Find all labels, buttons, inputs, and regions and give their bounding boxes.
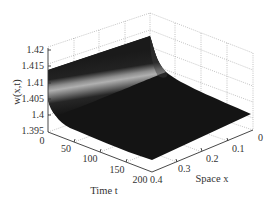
x-tick: 0.1 — [232, 143, 245, 154]
t-axis-label: Time t — [90, 185, 117, 196]
z-tick: 1.4 — [32, 109, 45, 120]
x-tick: 0.4 — [150, 174, 163, 185]
z-tick: 1.41 — [27, 77, 45, 88]
z-tick: 1.42 — [27, 44, 45, 55]
t-tick: 100 — [83, 153, 98, 164]
t-tick: 0 — [40, 135, 45, 146]
x-tick: 0.2 — [206, 153, 219, 164]
x-tick: 0.3 — [178, 163, 191, 174]
t-tick: 50 — [61, 143, 71, 154]
z-tick: 1.415 — [22, 60, 45, 71]
x-axis-label: Space x — [196, 173, 230, 184]
surface-plot: 1.42 1.415 1.41 1.405 1.4 1.395 0 50 100… — [0, 0, 269, 198]
surface — [48, 36, 251, 160]
x-tick: 0 — [258, 132, 263, 143]
z-axis-label: w(x,t) — [11, 79, 23, 105]
t-tick: 200 — [133, 174, 148, 185]
t-tick: 150 — [110, 164, 125, 175]
z-tick: 1.405 — [22, 93, 45, 104]
z-tick-labels: 1.42 1.415 1.41 1.405 1.4 1.395 — [22, 44, 45, 136]
